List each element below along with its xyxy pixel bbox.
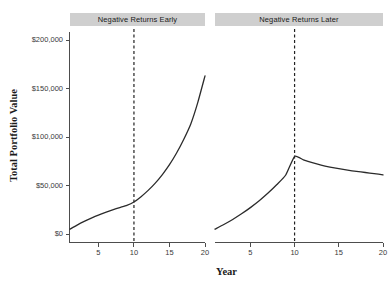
portfolio-value-line — [215, 156, 383, 229]
portfolio-value-line — [70, 76, 205, 229]
